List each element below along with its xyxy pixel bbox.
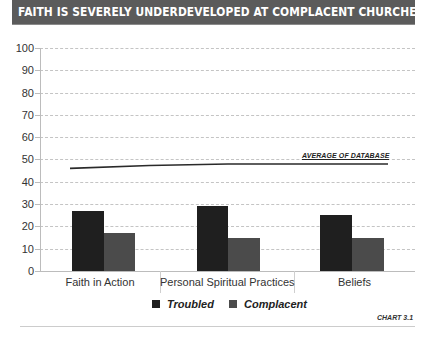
legend-label: Complacent (244, 298, 307, 310)
category-label: Beliefs (294, 276, 415, 288)
category-label: Faith in Action (40, 276, 160, 288)
chart-number: CHART 3.1 (377, 314, 413, 321)
legend-item-complacent: Complacent (229, 298, 307, 310)
legend-swatch-troubled-icon (152, 300, 160, 308)
legend-swatch-complacent-icon (229, 300, 237, 308)
average-line (0, 0, 432, 343)
category-label: Personal Spiritual Practices (160, 276, 294, 288)
bottom-divider (20, 326, 415, 327)
chart-legend: Troubled Complacent (0, 298, 432, 314)
average-line-label: AVERAGE OF DATABASE (302, 152, 389, 160)
chart-plot-area: 100 90 80 70 60 50 40 30 20 10 0 AVERAGE… (0, 0, 432, 343)
legend-label: Troubled (167, 298, 214, 310)
legend-item-troubled: Troubled (152, 298, 214, 310)
